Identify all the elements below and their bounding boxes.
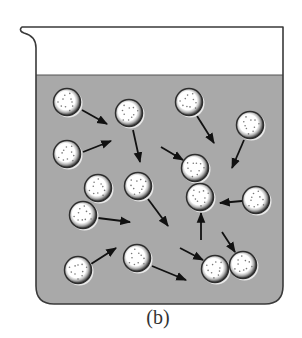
figure-caption: (b) xyxy=(0,306,302,329)
beaker-diagram xyxy=(0,0,302,338)
